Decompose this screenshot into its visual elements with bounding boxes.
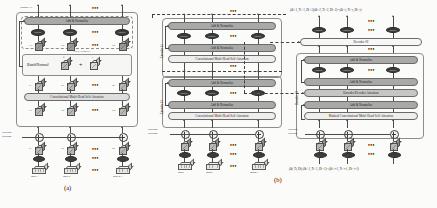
residual-line	[301, 119, 305, 120]
flow-line	[122, 25, 123, 29]
flow-line	[70, 25, 71, 29]
ellipsis: •••	[368, 68, 375, 73]
ellipsis: •••	[368, 47, 375, 52]
arrow-head	[318, 119, 320, 121]
flow-line	[184, 30, 185, 34]
encoder-embed-node	[207, 152, 219, 158]
arrow-head	[121, 126, 123, 128]
flow-line	[347, 16, 348, 27]
ellipsis: •••	[92, 6, 99, 11]
ellipsis: •••	[368, 19, 375, 24]
batchnorm-plus: +	[79, 62, 82, 68]
flow-line	[347, 120, 348, 128]
pos-enc-line	[305, 134, 390, 135]
flow-line	[393, 120, 394, 128]
positional-add-node	[344, 130, 353, 139]
flow-line	[258, 14, 259, 22]
arrow-head	[257, 119, 259, 121]
flow-line	[38, 153, 39, 156]
arrow-head	[69, 126, 71, 128]
positional-add-node	[316, 130, 325, 139]
arrow-head	[392, 45, 394, 47]
arrow-head	[257, 70, 259, 72]
encoder-memory-bus	[244, 93, 304, 94]
flow-line	[319, 120, 320, 128]
encoder2-label: Encoder #2	[160, 44, 164, 58]
input-label: Input1	[178, 171, 184, 174]
flow-line	[38, 25, 39, 29]
batchnorm-term-label: γ	[92, 56, 93, 59]
flow-line	[212, 149, 213, 152]
pos-enc-line	[170, 134, 255, 135]
panel-b-decoder: (Δt+1, Tt+1, Dt+1)(Δt+2, Tt+2, Dt+2)···(…	[288, 0, 437, 208]
arrow-head	[23, 20, 25, 22]
decoder-add-norm-3: Add & Normalize	[304, 101, 418, 109]
arrow-head	[346, 15, 348, 17]
flow-line	[258, 52, 259, 56]
encoder-memory-bus	[244, 42, 245, 93]
residual-line	[165, 26, 166, 48]
ellipsis: •••	[230, 34, 237, 39]
encoder-pos-enc-label-2: Encoding	[148, 132, 157, 135]
panel-a-conv-mhsa: Convolutional Multi-Head Self-Attention	[24, 93, 130, 101]
decoder-embed-node	[314, 152, 327, 158]
flow-line	[212, 30, 213, 34]
ellipsis: •••	[230, 64, 237, 69]
flow-line	[212, 52, 213, 56]
flow-line	[212, 14, 213, 22]
arrow-head	[392, 156, 394, 158]
flow-line	[258, 87, 259, 91]
decoder-input-formula: (Δt, Tt, Dt) (Δt+1, Tt+1, Dt+1)···(Δt+r-…	[289, 167, 359, 171]
ellipsis: •••	[230, 152, 237, 157]
flow-line	[212, 71, 213, 79]
panel-a-inner-add-norm-label: Add & Normalize	[73, 50, 90, 53]
flow-line	[70, 153, 71, 156]
flow-line	[393, 64, 394, 68]
positional-add-node	[209, 130, 218, 139]
positional-add-node	[67, 133, 76, 142]
ellipsis: •••	[92, 43, 99, 48]
encoder-pos-enc-label-1: Positional	[148, 128, 158, 131]
panel-a-embed-node	[65, 156, 77, 162]
panel-a-encoder-label: Encoder #1	[20, 6, 32, 9]
flow-line	[347, 109, 348, 113]
decoder-embed-node	[342, 152, 355, 158]
arrow-head	[69, 4, 71, 6]
decoder-enc-dec-attention: Encoder-Decoder Attention	[304, 89, 418, 97]
input-label: Input n-1	[113, 175, 122, 178]
flow-line	[347, 158, 348, 164]
encoder1-output-bus	[162, 71, 282, 72]
panel-a-embed-node	[33, 156, 45, 162]
positional-add-node	[35, 133, 44, 142]
flow-line	[184, 87, 185, 91]
decoder-bus	[270, 42, 300, 43]
encoder-output-bus	[152, 14, 153, 18]
panel-a-conv-node: CONV	[31, 29, 45, 36]
ellipsis: •••	[368, 143, 375, 148]
ellipsis: •••	[92, 30, 99, 35]
ellipsis: •••	[230, 9, 237, 14]
flow-line	[393, 149, 394, 152]
batchnorm-term-label: β	[63, 56, 64, 59]
arrow-head	[346, 119, 348, 121]
figure-root: Encoder #1 ••• Add & Normalize CONV CONV…	[0, 0, 437, 208]
encoder1-add-norm-upper: Add & Normalize	[168, 79, 276, 87]
flow-line	[393, 86, 394, 90]
arrow-head	[211, 119, 213, 121]
arrow-head	[183, 70, 185, 72]
ellipsis: •••	[92, 83, 99, 88]
positional-add-node	[181, 130, 190, 139]
ellipsis: •••	[92, 156, 99, 161]
tensor-label: Zn	[112, 84, 115, 87]
decoder-pos-enc-label-2: Encoding	[288, 132, 297, 135]
tensor-label: X1	[29, 147, 32, 150]
ellipsis: •••	[368, 152, 375, 157]
arrow-head	[392, 119, 394, 121]
arrow-head	[211, 13, 213, 15]
flow-line	[184, 52, 185, 56]
flow-line	[184, 149, 185, 152]
ellipsis: •••	[92, 108, 99, 113]
arrow-head	[121, 4, 123, 6]
residual-line	[301, 82, 305, 83]
panel-b-caption: (b)	[274, 176, 282, 183]
